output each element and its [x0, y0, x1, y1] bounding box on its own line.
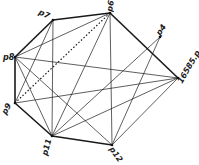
- edge-p4-p12: [112, 37, 160, 145]
- edge-p6-p11: [52, 13, 110, 136]
- graph-edges: [15, 13, 178, 145]
- edge-p6-p9: [15, 13, 110, 103]
- edge-p8-p7: [15, 20, 53, 57]
- edge-p8-p11: [15, 57, 52, 136]
- node-label-p11: p11: [40, 138, 53, 158]
- node-label-p9: p9: [0, 101, 14, 117]
- edge-n16585-p12: [112, 78, 178, 145]
- node-label-p12: p12: [107, 144, 125, 164]
- graph-diagram: p7p6p8p9p11p12p416585.p..: [0, 0, 199, 165]
- edge-p11-p9: [15, 103, 52, 136]
- edge-p8-n16585: [15, 57, 178, 78]
- edge-p6-n16585: [110, 13, 178, 78]
- edge-p7-p6: [53, 13, 110, 20]
- node-p7: [52, 19, 55, 22]
- node-p9: [14, 102, 17, 105]
- edge-p7-p11: [52, 20, 53, 136]
- node-label-n16585: 16585.p..: [176, 44, 199, 85]
- node-label-p7: p7: [36, 7, 51, 21]
- edge-p12-p11: [52, 136, 112, 145]
- edge-p6-p12: [110, 13, 112, 145]
- node-p11: [51, 135, 54, 138]
- node-label-p4: p4: [154, 22, 169, 38]
- node-label-p8: p8: [2, 53, 15, 62]
- edge-p11-n16585: [52, 78, 178, 136]
- node-label-p6: p6: [105, 0, 116, 13]
- edge-p9-n16585: [15, 78, 178, 103]
